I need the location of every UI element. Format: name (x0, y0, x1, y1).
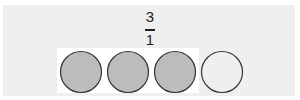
circle-2 (108, 52, 149, 93)
circle-4 (202, 52, 243, 93)
circle-3 (155, 52, 196, 93)
circle-1 (61, 52, 102, 93)
circle-row (0, 0, 300, 100)
